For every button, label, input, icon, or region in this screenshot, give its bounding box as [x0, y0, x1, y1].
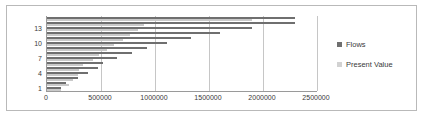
bar-present-value[interactable]: [47, 39, 123, 41]
bar-group: [47, 82, 317, 87]
y-axis-tick-label: 7: [38, 55, 42, 62]
legend-item-label: Flows: [346, 40, 366, 49]
bar-series-group: [47, 16, 317, 91]
y-axis-tick-label: 4: [38, 70, 42, 77]
bar-group: [47, 47, 317, 52]
chart-legend: Flows Present Value: [337, 40, 415, 80]
chart-container: 1471013 05000001000000150000020000002500…: [6, 5, 417, 111]
square-marker-icon: [337, 42, 342, 47]
y-axis-tick-label: 10: [34, 40, 42, 47]
plot-area: [46, 16, 317, 92]
x-axis-tick-label: 0: [44, 94, 48, 102]
legend-item-present-value[interactable]: Present Value: [337, 60, 415, 69]
y-axis-tick-label: 13: [34, 25, 42, 32]
bar-present-value[interactable]: [47, 64, 83, 66]
bar-present-value[interactable]: [47, 59, 93, 61]
bar-group: [47, 27, 317, 32]
gridline: [317, 16, 318, 91]
x-axis: 05000001000000150000020000002500000: [46, 94, 317, 106]
bar-group: [47, 87, 317, 92]
bar-present-value[interactable]: [47, 79, 73, 81]
bar-present-value[interactable]: [47, 69, 79, 71]
x-axis-tick-label: 2000000: [248, 94, 275, 102]
bar-group: [47, 22, 317, 27]
y-axis-tick-label: 1: [38, 85, 42, 92]
bar-present-value[interactable]: [47, 49, 107, 51]
bar-present-value[interactable]: [47, 24, 144, 26]
bar-group: [47, 67, 317, 72]
y-axis: 1471013: [21, 16, 42, 92]
legend-item-label: Present Value: [346, 60, 393, 69]
bar-present-value[interactable]: [47, 44, 114, 46]
bar-group: [47, 32, 317, 37]
legend-item-flows[interactable]: Flows: [337, 40, 415, 49]
bar-present-value[interactable]: [47, 84, 69, 86]
bar-group: [47, 37, 317, 42]
bar-group: [47, 77, 317, 82]
bar-group: [47, 52, 317, 57]
bar-group: [47, 72, 317, 77]
square-marker-icon: [337, 62, 342, 67]
x-axis-tick-label: 2500000: [302, 94, 329, 102]
x-axis-tick-label: 1000000: [140, 94, 167, 102]
bar-group: [47, 57, 317, 62]
bar-present-value[interactable]: [47, 29, 138, 31]
bar-group: [47, 62, 317, 67]
x-axis-tick-label: 500000: [88, 94, 111, 102]
bar-group: [47, 42, 317, 47]
bar-present-value[interactable]: [47, 89, 61, 91]
x-axis-tick-label: 1500000: [194, 94, 221, 102]
bar-present-value[interactable]: [47, 19, 252, 21]
bar-present-value[interactable]: [47, 74, 78, 76]
bar-group: [47, 17, 317, 22]
bar-present-value[interactable]: [47, 54, 99, 56]
bar-present-value[interactable]: [47, 34, 130, 36]
